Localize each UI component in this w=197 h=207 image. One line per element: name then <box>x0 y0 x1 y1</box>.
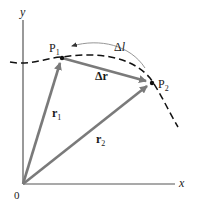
y-axis-label: y <box>19 5 26 19</box>
x-axis-label: x <box>178 176 185 190</box>
p2-label: P2 <box>158 77 169 93</box>
point-p1 <box>60 56 64 60</box>
vector-r2 <box>23 86 147 184</box>
r2-label-sub: 2 <box>101 139 105 148</box>
delta-r-label: Δr <box>95 69 109 83</box>
r2-label: r2 <box>96 132 105 148</box>
p2-label-sub: 2 <box>165 84 169 93</box>
r1-label: r1 <box>52 106 61 122</box>
vector-r1 <box>23 63 60 184</box>
delta-l-var: l <box>122 40 126 54</box>
origin-label: 0 <box>14 189 20 201</box>
r1-label-sub: 1 <box>57 113 61 122</box>
position-vector-diagram: y x 0 P1 P2 r1 r2 Δr Δl <box>0 0 197 207</box>
p1-label: P1 <box>49 41 60 57</box>
point-p2 <box>150 81 154 85</box>
delta-l-label: Δl <box>114 40 126 54</box>
p1-label-sub: 1 <box>56 48 60 57</box>
